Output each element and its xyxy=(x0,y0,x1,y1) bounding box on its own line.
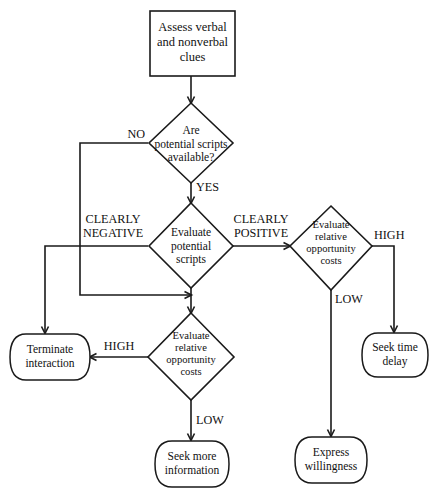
node-terminate-shape xyxy=(10,334,90,380)
edge-clearly-negative-to-terminate xyxy=(45,246,148,333)
flowchart-diagram: Assess verbal and nonverbal clues Are po… xyxy=(0,0,443,493)
node-evaluate-scripts-shape xyxy=(149,203,233,288)
node-seek-time-delay-shape xyxy=(362,333,428,377)
node-assess-shape xyxy=(150,11,235,76)
node-express-willingness-shape xyxy=(295,437,367,483)
edge-high-to-seek-time-delay xyxy=(372,246,394,332)
node-evaluate-costs-right-shape xyxy=(290,206,372,290)
node-scripts-available-shape xyxy=(149,103,233,183)
flowchart-canvas xyxy=(0,0,443,493)
node-evaluate-costs-lower-shape xyxy=(148,313,234,400)
node-seek-more-information-shape xyxy=(155,441,229,487)
